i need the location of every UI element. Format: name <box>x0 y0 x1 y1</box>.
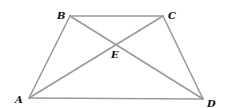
vertex-label-d: D <box>206 98 216 108</box>
vertex-label-b: B <box>56 10 65 21</box>
intersection-label-e: E <box>110 49 119 60</box>
trapezoid-diagram: A B C D E <box>0 0 225 108</box>
vertex-label-a: A <box>14 94 23 105</box>
vertex-label-c: C <box>168 10 176 21</box>
segment-da <box>29 98 203 99</box>
labels: A B C D E <box>14 10 216 108</box>
